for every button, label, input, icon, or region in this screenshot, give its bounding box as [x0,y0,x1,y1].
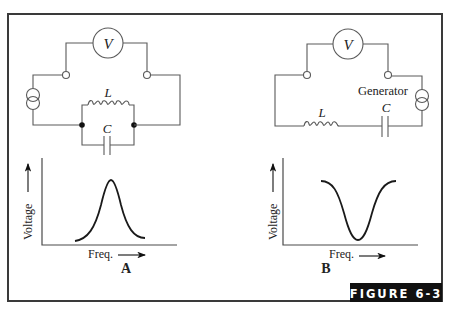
inductor-label: L [317,105,325,120]
voltmeter-icon: V [93,28,123,58]
capacitor-label: C [103,121,112,136]
capacitor-icon [104,136,110,155]
response-curve-peak [75,180,145,241]
y-axis-label: Voltage [21,204,35,240]
generator-label: Generator [358,84,409,98]
figure-label-box: FIGURE 6-3 [350,283,442,302]
graph-axes [42,158,177,245]
wire [123,43,147,71]
wire [33,110,82,126]
x-axis-label: Freq. [88,247,113,261]
terminal-icon [63,72,70,79]
inductor-icon [88,101,129,105]
figure-frame [8,14,442,301]
graph-a: Voltage Freq. A [21,158,177,276]
terminal-icon [304,72,311,79]
y-axis-label: Voltage [266,204,280,240]
inductor-icon [304,122,340,127]
figure-canvas: V L C V [0,0,454,310]
wire [307,44,333,71]
generator-icon [416,90,429,111]
voltmeter-icon: V [333,29,363,59]
panel-label-b: B [321,261,330,276]
wire [82,125,104,145]
figure-label: FIGURE 6-3 [350,287,442,301]
capacitor-icon [382,116,388,137]
response-curve-dip [321,181,396,240]
terminal-icon [385,72,392,79]
panel-label-a: A [121,261,132,276]
terminal-icon [144,72,151,79]
wire [129,105,134,125]
wire [33,75,63,88]
circuit-a: V L C [27,28,181,155]
wire [134,75,180,125]
junction-node [79,122,85,128]
circuit-b: V L C Generator [275,29,429,137]
wire [275,75,304,126]
wire [66,43,93,71]
capacitor-label: C [382,100,391,115]
x-axis-label: Freq. [329,247,354,261]
wire [388,110,422,126]
wire [363,44,388,71]
inductor-label: L [103,85,111,100]
graph-b: Voltage Freq. B [266,158,418,276]
wire [82,105,88,125]
wire [110,125,134,145]
generator-icon [27,89,40,110]
